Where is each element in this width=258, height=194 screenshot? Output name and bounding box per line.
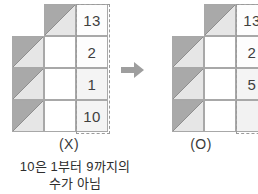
cell-r2c2-white — [44, 36, 76, 68]
cell-value-text: 5 — [248, 76, 257, 93]
explanation-note: 10은 1부터 9까지의 수가 아님 — [0, 158, 150, 192]
cell-r3c2-white — [204, 68, 236, 100]
cell-r3c2-white — [44, 68, 76, 100]
cell-r3c3-value: 1 — [76, 68, 108, 100]
right-arrow-icon — [120, 60, 146, 80]
cell-r1c2-triangle — [204, 4, 236, 36]
cell-r4c2-white — [44, 100, 76, 132]
cell-r1c2-triangle — [44, 4, 76, 36]
cell-r2c1-triangle — [12, 36, 44, 68]
cell-r3c1-triangle — [172, 68, 204, 100]
cell-r3c1-triangle — [12, 68, 44, 100]
cell-value-text: 13 — [83, 12, 101, 29]
cell-r3c3-value: 5 — [236, 68, 258, 100]
cell-r1c3-value: 13 — [76, 4, 108, 36]
cell-r2c3-value: 2 — [76, 36, 108, 68]
cell-r2c2-white — [204, 36, 236, 68]
figure-canvas: 13 2 1 10 13 — [0, 0, 258, 194]
left-panel-caption: (X) — [14, 136, 124, 152]
cell-value-text: 10 — [83, 108, 101, 125]
cell-r4c3-value: 10 — [76, 100, 108, 132]
right-panel-caption: (O) — [146, 136, 256, 152]
cell-r4c2-white — [204, 100, 236, 132]
cell-value-text: 13 — [243, 12, 258, 29]
cell-value-text: 2 — [88, 44, 97, 61]
cell-r4c1-triangle — [12, 100, 44, 132]
cell-r1c3-value: 13 — [236, 4, 258, 36]
cell-value-text: 1 — [88, 76, 97, 93]
cell-r2c3-value: 2 — [236, 36, 258, 68]
cell-r4c1-triangle — [172, 100, 204, 132]
note-line-2: 수가 아님 — [0, 175, 150, 192]
note-line-1: 10은 1부터 9까지의 — [0, 158, 150, 175]
cell-value-text: 2 — [248, 44, 257, 61]
cell-r4c3-value-empty — [236, 100, 258, 132]
cell-r2c1-triangle — [172, 36, 204, 68]
